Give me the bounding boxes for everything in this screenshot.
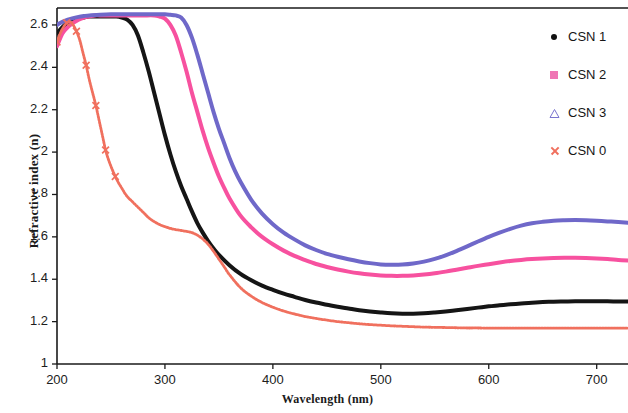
series-group (54, 14, 628, 328)
legend-item-csn3: CSN 3 (548, 102, 606, 122)
x-tick-label: 500 (351, 372, 411, 387)
x-tick-label: 200 (27, 372, 87, 387)
refractive-index-chart: Refractive index (n) Wavelength (nm) 11.… (0, 0, 628, 413)
x-marker-icon (548, 144, 561, 157)
legend-item-csn1: CSN 1 (548, 26, 606, 46)
x-tick-label: 400 (243, 372, 303, 387)
legend-item-csn0: CSN 0 (548, 140, 606, 160)
legend-item-csn2: CSN 2 (548, 64, 606, 84)
y-tick-label: 1.6 (4, 228, 48, 243)
y-tick-label: 1.8 (4, 185, 48, 200)
x-axis-title: Wavelength (nm) (57, 392, 598, 407)
x-tick-label: 600 (459, 372, 519, 387)
legend-label-csn3: CSN 3 (568, 105, 606, 120)
chart-legend: CSN 1 CSN 2 CSN 3 CSN 0 (548, 26, 626, 162)
triangle-marker-icon (548, 106, 561, 119)
dot-marker-icon (548, 30, 561, 43)
y-tick-label: 1.2 (4, 313, 48, 328)
y-tick-label: 2.4 (4, 58, 48, 73)
x-tick-label: 700 (567, 372, 627, 387)
y-tick-label: 2.2 (4, 101, 48, 116)
plot-area (0, 0, 628, 413)
y-tick-label: 1 (4, 355, 48, 370)
y-tick-label: 2 (4, 143, 48, 158)
series-line-csn-0 (57, 22, 628, 329)
x-tick-label: 300 (135, 372, 195, 387)
y-tick-label: 2.6 (4, 16, 48, 31)
square-marker-icon (548, 68, 561, 81)
legend-label-csn2: CSN 2 (568, 67, 606, 82)
legend-label-csn1: CSN 1 (568, 29, 606, 44)
legend-label-csn0: CSN 0 (568, 143, 606, 158)
y-tick-label: 1.4 (4, 270, 48, 285)
